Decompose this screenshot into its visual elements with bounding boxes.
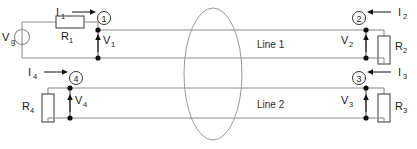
voltage-label-V4: V [75, 94, 83, 106]
current-label-I2: I [398, 6, 401, 18]
junction-dot-node4-bottom [67, 115, 72, 120]
circuit-schematic: 1 2 3 4 V g R 1 [0, 0, 417, 149]
current-label-I4-sub: 4 [33, 72, 37, 81]
current-arrow-I3-head [367, 69, 373, 75]
voltage-label-V2: V [341, 34, 349, 46]
node-label-4: 4 [73, 74, 78, 84]
resistor-label-R4-sub: 4 [30, 106, 34, 115]
current-label-I2-sub: 2 [403, 12, 407, 21]
source-label-sub: g [11, 37, 15, 46]
current-arrow-I1-head [90, 9, 96, 15]
junction-dot-node3-bottom [363, 115, 368, 120]
current-label-I4: I [28, 66, 31, 78]
current-arrow-I2-head [367, 9, 373, 15]
junction-dot-node3-top [363, 85, 368, 90]
node-label-3: 3 [356, 74, 361, 84]
junction-dot-node1-top [95, 27, 100, 32]
voltage-label-V1: V [103, 34, 111, 46]
resistor-label-R2-sub: 2 [403, 46, 407, 55]
voltage-label-V2-sub: 2 [349, 40, 353, 49]
voltage-label-V3: V [341, 94, 349, 106]
current-label-I1-sub: 1 [61, 12, 65, 21]
junction-dot-node2-bottom [363, 55, 368, 60]
resistor-label-R1-sub: 1 [69, 36, 73, 45]
source-label: V [2, 31, 10, 43]
junction-dot-node4-top [67, 85, 72, 90]
resistor-label-R1: R [61, 30, 69, 42]
line1-label: Line 1 [257, 39, 285, 50]
voltage-arrow-V3-head [363, 94, 369, 100]
circuit-diagram-canvas: 1 2 3 4 V g R 1 [0, 0, 417, 149]
voltage-label-V1-sub: 1 [111, 40, 115, 49]
resistor-label-R2: R [395, 40, 403, 52]
current-label-I3: I [398, 66, 401, 78]
voltage-arrow-V4-head [67, 94, 73, 100]
resistor-label-R4: R [22, 100, 30, 112]
resistor-label-R3: R [395, 100, 403, 112]
current-arrow-I4-head [62, 69, 68, 75]
line2-label: Line 2 [257, 99, 285, 110]
voltage-label-V4-sub: 4 [83, 100, 87, 109]
current-label-I3-sub: 3 [403, 72, 407, 81]
voltage-label-V3-sub: 3 [349, 100, 353, 109]
voltage-arrow-V1-head [95, 34, 101, 40]
coupling-ellipse [184, 8, 242, 140]
resistor-label-R3-sub: 3 [403, 106, 407, 115]
node-label-2: 2 [356, 14, 361, 24]
junction-dot-node1-bottom [95, 55, 100, 60]
node-label-1: 1 [101, 14, 106, 24]
current-label-I1: I [56, 6, 59, 18]
junction-dot-node2-top [363, 27, 368, 32]
voltage-arrow-V2-head [363, 34, 369, 40]
